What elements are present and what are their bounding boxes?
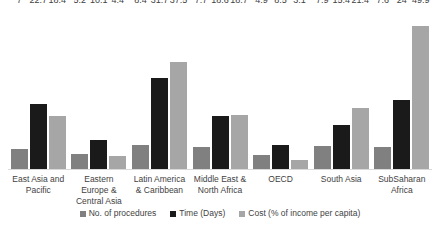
bar-time-days[interactable]: [212, 116, 229, 169]
legend-label: No. of procedures: [89, 208, 157, 219]
bar-no-of-procedures[interactable]: [253, 155, 270, 169]
bar-group: 5.2 10.1 4.4: [69, 6, 130, 169]
bar-slot: 22.7: [30, 6, 47, 169]
bar-time-days[interactable]: [151, 78, 168, 169]
bar-value-label: 15.4: [332, 0, 350, 5]
category-label: SubSaharan Africa: [371, 172, 432, 202]
bar-time-days[interactable]: [333, 125, 350, 169]
bar-cost-pct-income[interactable]: [231, 115, 248, 169]
category-label: South Asia: [311, 172, 372, 202]
legend-swatch-icon: [239, 211, 245, 217]
bar-slot: 5.2: [71, 6, 88, 169]
bar-slot: 18.6: [212, 6, 229, 169]
bar-no-of-procedures[interactable]: [374, 147, 391, 169]
bar-time-days[interactable]: [30, 104, 47, 169]
category-label: Middle East & North Africa: [190, 172, 251, 202]
bar-slot: 3.1: [291, 6, 308, 169]
bar-value-label: 7: [17, 0, 22, 5]
bar-slot: 24: [393, 6, 410, 169]
category-label: Eastern Europe & Central Asia: [69, 172, 130, 202]
category-label: East Asia and Pacific: [8, 172, 69, 202]
bar-slot: 4.4: [109, 6, 126, 169]
bar-cost-pct-income[interactable]: [412, 26, 429, 169]
bar-value-label: 4.4: [112, 0, 125, 5]
legend-label: Time (Days): [179, 208, 225, 219]
bar-value-label: 18.7: [230, 0, 248, 5]
bar-value-label: 7.6: [376, 0, 389, 5]
legend-label: Cost (% of income per capita): [248, 208, 360, 219]
bar-value-label: 8.4: [134, 0, 147, 5]
bar-value-label: 7.9: [316, 0, 329, 5]
bar-value-label: 37.5: [170, 0, 188, 5]
bar-group: 7.6 24 49.9: [371, 6, 432, 169]
bar-group: 4.9 8.5 3.1: [250, 6, 311, 169]
bar-group: 7 22.7 18.4: [8, 6, 69, 169]
bar-cost-pct-income[interactable]: [352, 108, 369, 169]
bar-slot: 10.1: [90, 6, 107, 169]
bar-slot: 31.7: [151, 6, 168, 169]
bar-slot: 8.5: [272, 6, 289, 169]
bar-value-label: 24: [397, 0, 407, 5]
bar-group: 8.4 31.7 37.5: [129, 6, 190, 169]
bar-no-of-procedures[interactable]: [314, 146, 331, 169]
bar-time-days[interactable]: [393, 100, 410, 169]
chart-legend: No. of procedures Time (Days) Cost (% of…: [0, 208, 440, 219]
bar-value-label: 8.5: [274, 0, 287, 5]
bar-value-label: 49.9: [412, 0, 430, 5]
category-label: Latin America & Caribbean: [129, 172, 190, 202]
bar-slot: 8.4: [132, 6, 149, 169]
bar-no-of-procedures[interactable]: [132, 145, 149, 169]
bar-slot: 15.4: [333, 6, 350, 169]
bar-value-label: 18.6: [211, 0, 229, 5]
bar-slot: 7: [11, 6, 28, 169]
bar-time-days[interactable]: [90, 140, 107, 169]
bar-value-label: 22.7: [30, 0, 48, 5]
bar-cost-pct-income[interactable]: [170, 62, 187, 169]
bar-time-days[interactable]: [272, 145, 289, 169]
bar-chart: 7 22.7 18.4 5.2 10.1: [0, 0, 440, 232]
bar-value-label: 10.1: [90, 0, 108, 5]
bar-value-label: 7.7: [195, 0, 208, 5]
bar-slot: 18.4: [49, 6, 66, 169]
legend-swatch-icon: [80, 211, 86, 217]
bar-slot: 21.4: [352, 6, 369, 169]
bar-value-label: 5.2: [74, 0, 87, 5]
bar-no-of-procedures[interactable]: [11, 149, 28, 169]
x-axis-line: [8, 169, 432, 170]
bar-cost-pct-income[interactable]: [109, 156, 126, 169]
bar-no-of-procedures[interactable]: [71, 154, 88, 169]
bar-value-label: 4.9: [255, 0, 268, 5]
bar-slot: 37.5: [170, 6, 187, 169]
bar-value-label: 21.4: [351, 0, 369, 5]
bar-cost-pct-income[interactable]: [49, 116, 66, 169]
bar-value-label: 31.7: [151, 0, 169, 5]
bar-group: 7.7 18.6 18.7: [190, 6, 251, 169]
bar-slot: 4.9: [253, 6, 270, 169]
bar-slot: 7.7: [193, 6, 210, 169]
bar-groups: 7 22.7 18.4 5.2 10.1: [8, 6, 432, 169]
x-axis-category-labels: East Asia and Pacific Eastern Europe & C…: [8, 172, 432, 202]
legend-swatch-icon: [170, 211, 176, 217]
category-label: OECD: [250, 172, 311, 202]
legend-item-time-days[interactable]: Time (Days): [170, 208, 225, 219]
bar-cost-pct-income[interactable]: [291, 160, 308, 169]
bar-slot: 49.9: [412, 6, 429, 169]
legend-item-cost-pct-income[interactable]: Cost (% of income per capita): [239, 208, 360, 219]
bar-slot: 18.7: [231, 6, 248, 169]
bar-slot: 7.9: [314, 6, 331, 169]
plot-area: 7 22.7 18.4 5.2 10.1: [8, 6, 432, 170]
bar-no-of-procedures[interactable]: [193, 147, 210, 169]
legend-item-no-of-procedures[interactable]: No. of procedures: [80, 208, 157, 219]
bar-slot: 7.6: [374, 6, 391, 169]
bar-value-label: 3.1: [293, 0, 306, 5]
bar-value-label: 18.4: [49, 0, 67, 5]
bar-group: 7.9 15.4 21.4: [311, 6, 372, 169]
